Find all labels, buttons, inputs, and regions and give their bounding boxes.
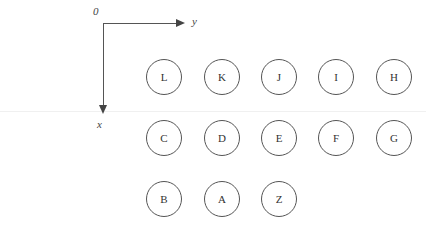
node-c: C bbox=[146, 120, 182, 156]
node-d: D bbox=[204, 120, 240, 156]
node-l: L bbox=[146, 59, 182, 95]
node-j: J bbox=[261, 59, 297, 95]
node-g: G bbox=[376, 120, 412, 156]
node-b: B bbox=[146, 181, 182, 217]
x-axis-arrow-icon bbox=[99, 105, 107, 114]
node-f: F bbox=[318, 120, 354, 156]
y-axis-label: y bbox=[192, 15, 197, 27]
node-h: H bbox=[376, 59, 412, 95]
y-axis-line bbox=[103, 23, 178, 24]
x-axis-label: x bbox=[97, 118, 102, 130]
node-a: A bbox=[204, 181, 240, 217]
node-i: I bbox=[318, 59, 354, 95]
node-z: Z bbox=[261, 181, 297, 217]
origin-label: 0 bbox=[93, 5, 99, 17]
x-axis-line bbox=[103, 23, 104, 108]
y-axis-arrow-icon bbox=[176, 19, 185, 27]
faint-divider bbox=[0, 111, 426, 112]
node-k: K bbox=[204, 59, 240, 95]
node-e: E bbox=[261, 120, 297, 156]
